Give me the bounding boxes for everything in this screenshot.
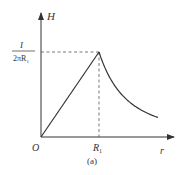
- magnetic-field-diagram: H r O R1 I 2πR1 (a): [0, 0, 183, 175]
- x-axis-label: r: [160, 145, 164, 156]
- x-tick-main: R: [92, 142, 99, 153]
- y-tick-denominator-main: 2πR: [13, 54, 27, 63]
- linear-rise-segment: [41, 52, 99, 137]
- y-tick-denominator: 2πR1: [13, 54, 29, 64]
- origin-label: O: [32, 142, 39, 153]
- x-tick-sub: 1: [99, 148, 102, 154]
- figure-caption: (a): [87, 156, 97, 166]
- y-axis-label: H: [46, 10, 56, 22]
- y-tick-numerator: I: [19, 40, 24, 50]
- inverse-decay-curve: [99, 52, 158, 118]
- y-tick-denominator-sub: 1: [26, 59, 29, 64]
- x-tick-r1: R1: [92, 142, 102, 154]
